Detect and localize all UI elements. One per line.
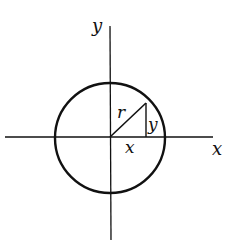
x-axis-label: x bbox=[212, 138, 222, 159]
hypotenuse-label: r bbox=[117, 102, 126, 122]
y-axis-label: y bbox=[91, 15, 103, 36]
base-label: x bbox=[125, 137, 135, 157]
y-axis bbox=[110, 26, 111, 240]
height-label: y bbox=[147, 114, 158, 134]
circle-diagram: y x r x y bbox=[0, 0, 234, 249]
radius-line bbox=[110, 103, 146, 137]
